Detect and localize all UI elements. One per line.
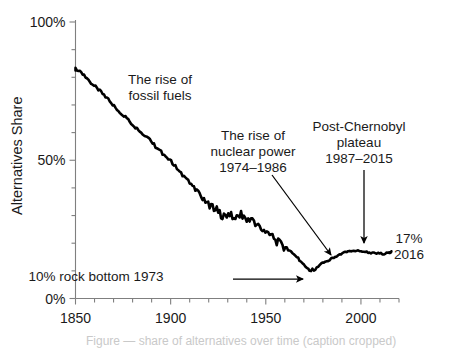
x-axis-tick-labels: 1850190019502000 bbox=[60, 310, 377, 326]
annotation-line: 1974–1986 bbox=[219, 160, 287, 175]
y-axis-tick-label: 50% bbox=[37, 152, 65, 168]
y-axis-tick-labels: 0%50%100% bbox=[30, 14, 66, 307]
chart-figure: 0%50%100% 1850190019502000 Alternatives … bbox=[0, 0, 453, 350]
annotation-nuclear-power: The rise ofnuclear power1974–1986 bbox=[211, 128, 296, 175]
annotation-line: Post-Chernobyl bbox=[312, 119, 405, 134]
y-axis-title: Alternatives Share bbox=[9, 97, 25, 215]
y-axis-ticks bbox=[70, 22, 76, 299]
figure-caption: Figure — share of alternatives over time… bbox=[0, 336, 453, 350]
x-axis-tick-label: 1900 bbox=[155, 310, 186, 326]
annotation-post-chernobyl: Post-Chernobylplateau1987–2015 bbox=[312, 119, 405, 166]
y-axis-tick-label: 100% bbox=[30, 14, 66, 30]
annotation-line: The rise of bbox=[128, 72, 192, 87]
annotation-line: nuclear power bbox=[211, 144, 296, 159]
chart-svg: 0%50%100% 1850190019502000 Alternatives … bbox=[0, 0, 453, 350]
annotation-line: 2016 bbox=[394, 247, 424, 262]
x-axis-tick-label: 1850 bbox=[60, 310, 91, 326]
annotation-line: The rise of bbox=[221, 128, 285, 143]
annotation-line: 17% bbox=[395, 231, 422, 246]
chart-arrows bbox=[233, 170, 364, 279]
x-axis-tick-label: 2000 bbox=[345, 310, 376, 326]
annotation-line: 1987–2015 bbox=[325, 151, 393, 166]
annotation-line: fossil fuels bbox=[128, 88, 191, 103]
annotation-line: plateau bbox=[337, 135, 381, 150]
x-axis-ticks bbox=[76, 299, 400, 305]
y-axis-tick-label: 0% bbox=[45, 291, 65, 307]
x-axis-tick-label: 1950 bbox=[250, 310, 281, 326]
annotation-end-value: 17%2016 bbox=[394, 231, 424, 262]
figure-caption-text: Figure — share of alternatives over time… bbox=[86, 336, 396, 348]
annotation-fossil-fuels: The rise offossil fuels bbox=[128, 72, 192, 103]
annotation-rock-bottom: 10% rock bottom 1973 bbox=[28, 269, 163, 284]
annotation-line: 10% rock bottom 1973 bbox=[28, 269, 163, 284]
